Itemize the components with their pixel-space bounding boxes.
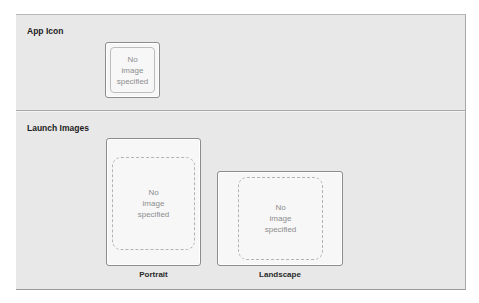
placeholder-line: specified xyxy=(124,209,184,220)
app-icon-section: App Icon No image specified xyxy=(16,15,465,110)
section-divider-highlight xyxy=(16,111,465,112)
launch-images-section-label: Launch Images xyxy=(27,123,89,133)
landscape-caption: Landscape xyxy=(217,270,343,279)
placeholder-line: image xyxy=(111,65,154,76)
placeholder-line: No xyxy=(251,202,311,213)
placeholder-line: No xyxy=(124,187,184,198)
placeholder-line: image xyxy=(124,198,184,209)
landscape-launch-image-well[interactable]: No image specified xyxy=(217,171,343,266)
portrait-dashed-dropzone: No image specified xyxy=(112,157,195,250)
placeholder-line: image xyxy=(251,213,311,224)
portrait-caption: Portrait xyxy=(106,270,201,279)
app-images-panel: App Icon No image specified Launch Image… xyxy=(16,14,466,290)
app-icon-placeholder-frame: No image specified xyxy=(110,47,155,93)
app-icon-section-label: App Icon xyxy=(27,26,63,36)
portrait-placeholder-text: No image specified xyxy=(124,187,184,220)
placeholder-line: specified xyxy=(251,224,311,235)
portrait-launch-image-well[interactable]: No image specified xyxy=(106,138,201,266)
placeholder-line: specified xyxy=(111,76,154,87)
landscape-dashed-dropzone: No image specified xyxy=(238,177,323,260)
app-icon-well[interactable]: No image specified xyxy=(105,42,160,98)
placeholder-line: No xyxy=(111,54,154,65)
landscape-placeholder-text: No image specified xyxy=(251,202,311,235)
app-icon-placeholder-text: No image specified xyxy=(111,54,154,87)
